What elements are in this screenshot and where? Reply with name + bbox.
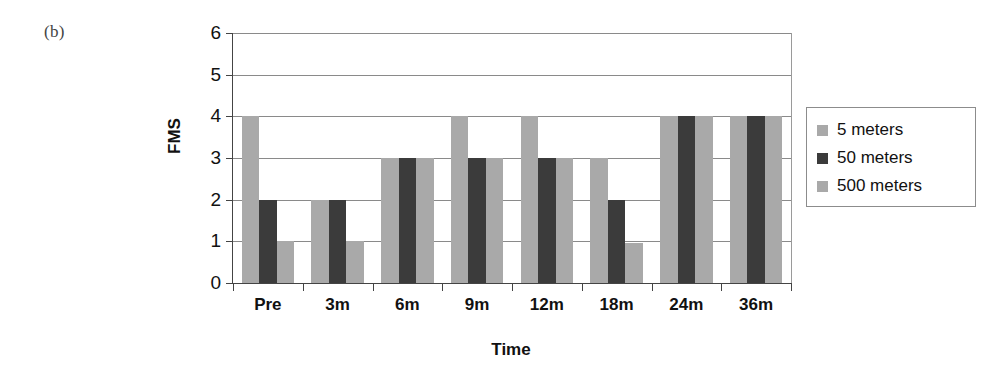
x-tick-label: 36m (739, 295, 773, 315)
bar (695, 116, 712, 283)
legend-item: 500 meters (817, 172, 975, 200)
legend-item: 5 meters (817, 116, 975, 144)
y-tick-label: 1 (210, 230, 221, 252)
bar (747, 116, 764, 283)
bar (678, 116, 695, 283)
bar (277, 241, 294, 283)
legend-label: 500 meters (837, 176, 922, 196)
y-axis-title: FMS (165, 130, 185, 154)
x-tick-mark (512, 283, 513, 291)
chart-legend: 5 meters50 meters500 meters (806, 107, 976, 207)
x-axis-title: Time (232, 340, 790, 360)
bar (730, 116, 747, 283)
y-tick-mark (226, 200, 233, 201)
plot-right-edge (791, 33, 792, 283)
bar (556, 158, 573, 283)
bar (311, 200, 328, 283)
bar (329, 200, 346, 283)
bar (486, 158, 503, 283)
y-tick-mark (226, 283, 233, 284)
x-tick-label: Pre (254, 295, 281, 315)
x-tick-mark (303, 283, 304, 291)
bar (346, 241, 363, 283)
y-tick-label: 3 (210, 147, 221, 169)
x-tick-mark (233, 283, 234, 291)
bar (381, 158, 398, 283)
y-tick-mark (226, 116, 233, 117)
x-tick-mark (791, 283, 792, 291)
bar (538, 158, 555, 283)
x-tick-mark (442, 283, 443, 291)
x-tick-label: 6m (395, 295, 420, 315)
y-tick-mark (226, 75, 233, 76)
y-tick-mark (226, 33, 233, 34)
x-tick-mark (721, 283, 722, 291)
legend-swatch-icon (817, 181, 828, 192)
bar (590, 158, 607, 283)
bar (242, 116, 259, 283)
bar (625, 243, 642, 283)
bar (259, 200, 276, 283)
bar (660, 116, 677, 283)
y-tick-mark (226, 158, 233, 159)
y-tick-label: 4 (210, 105, 221, 127)
x-tick-mark (652, 283, 653, 291)
bar (451, 116, 468, 283)
legend-swatch-icon (817, 125, 828, 136)
x-tick-label: 9m (465, 295, 490, 315)
y-tick-mark (226, 241, 233, 242)
y-tick-label: 5 (210, 64, 221, 86)
bar (765, 116, 782, 283)
figure-panel-b: (b) FMS 0123456 Pre3m6m9m12m18m24m36m Ti… (0, 0, 998, 378)
bar (608, 200, 625, 283)
x-tick-label: 3m (325, 295, 350, 315)
plot-area: 0123456 Pre3m6m9m12m18m24m36m (232, 33, 791, 284)
x-tick-label: 12m (530, 295, 564, 315)
legend-item: 50 meters (817, 144, 975, 172)
gridline (233, 75, 791, 76)
y-tick-label: 0 (210, 272, 221, 294)
bar (468, 158, 485, 283)
x-tick-mark (582, 283, 583, 291)
legend-label: 5 meters (837, 120, 903, 140)
x-tick-label: 18m (600, 295, 634, 315)
y-tick-label: 6 (210, 22, 221, 44)
legend-swatch-icon (817, 153, 828, 164)
y-tick-label: 2 (210, 189, 221, 211)
gridline (233, 33, 791, 34)
x-tick-label: 24m (669, 295, 703, 315)
x-tick-mark (373, 283, 374, 291)
bar (521, 116, 538, 283)
legend-label: 50 meters (837, 148, 913, 168)
panel-label: (b) (44, 22, 65, 42)
bar (416, 158, 433, 283)
bar (399, 158, 416, 283)
